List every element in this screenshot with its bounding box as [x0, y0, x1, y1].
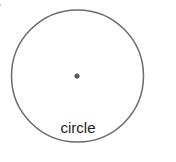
center-point: [74, 73, 79, 78]
circle-label: circle: [60, 119, 95, 136]
stray-mark: [0, 4, 1, 6]
diagram-canvas: circle: [0, 0, 176, 162]
